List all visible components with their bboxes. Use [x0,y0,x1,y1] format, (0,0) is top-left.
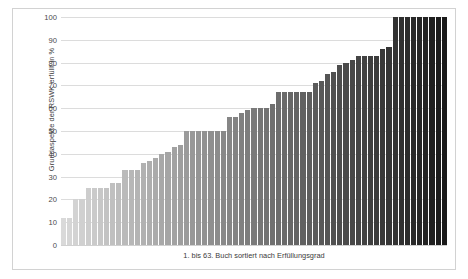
bar [282,92,287,245]
bar [221,131,226,245]
bar [196,131,201,245]
bar [368,56,373,245]
y-axis-tick-label: 80 [29,58,57,67]
bar [92,188,97,245]
bar [208,131,213,245]
bar [362,56,367,245]
bar [190,131,195,245]
plot-area [61,17,447,245]
bar [331,72,336,245]
y-axis-tick-label: 40 [29,149,57,158]
bar [442,17,447,245]
y-axis-tick-label: 20 [29,195,57,204]
bar [258,108,263,245]
y-axis-tick-label: 100 [29,13,57,22]
chart-plot-wrapper: Grundaspekte der RSWK erfüllt in % 10090… [13,9,455,269]
bar [276,92,281,245]
bar [393,17,398,245]
bar [153,158,158,245]
bar [147,161,152,245]
bar [129,170,134,245]
bar-series [61,17,447,245]
bar [73,199,78,245]
x-axis-title: 1. bis 63. Buch sortiert nach Erfüllungs… [61,251,447,260]
bar [294,92,299,245]
bar [337,65,342,245]
y-axis-tick-label: 30 [29,172,57,181]
bar [159,154,164,245]
bar [307,92,312,245]
bar [165,152,170,245]
bar [215,131,220,245]
chart-frame: Grundaspekte der RSWK erfüllt in % 10090… [12,8,456,270]
bar [61,218,66,245]
bar [399,17,404,245]
gridline [61,245,447,246]
bar [86,188,91,245]
bar [227,117,232,245]
y-axis-tick-label: 70 [29,81,57,90]
bar [350,60,355,245]
bar [270,104,275,245]
bar [116,183,121,245]
bar [239,113,244,245]
bar [202,131,207,245]
bar [141,163,146,245]
bar [436,17,441,245]
bar [178,145,183,245]
y-axis-tick-label: 0 [29,241,57,250]
bar [386,47,391,245]
bar [417,17,422,245]
y-axis-tick-label: 50 [29,127,57,136]
bar [325,74,330,245]
bar [405,17,410,245]
bar [423,17,428,245]
bar [343,63,348,245]
bar [245,110,250,245]
bar [110,183,115,245]
bar [104,188,109,245]
bar [380,49,385,245]
bar [98,188,103,245]
bar [374,56,379,245]
bar [356,56,361,245]
bar [233,117,238,245]
y-axis-tick-label: 60 [29,104,57,113]
bar [251,108,256,245]
bar [411,17,416,245]
bar [184,131,189,245]
bar [135,170,140,245]
bar [172,147,177,245]
y-axis-tick-label: 90 [29,35,57,44]
bar [313,83,318,245]
bar [122,170,127,245]
bar [79,199,84,245]
y-axis-tick-labels: 1009080706050403020100 [29,9,57,269]
bar [319,81,324,245]
bar [264,108,269,245]
bar [300,92,305,245]
bar [288,92,293,245]
y-axis-tick-label: 10 [29,218,57,227]
bar [429,17,434,245]
bar [67,218,72,245]
